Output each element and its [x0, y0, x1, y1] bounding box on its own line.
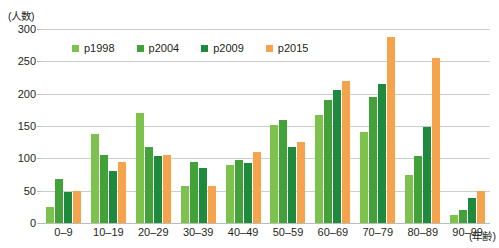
x-tick-label: 50–59	[266, 226, 311, 238]
y-axis-unit-label: (人数)	[8, 8, 34, 23]
bar-p2004-70–79	[369, 97, 377, 223]
legend-swatch-icon	[266, 45, 273, 52]
bar-p2004-20–29	[145, 147, 153, 223]
bar-p2015-70–79	[387, 37, 395, 223]
legend-swatch-icon	[201, 45, 208, 52]
bar-p2004-0–9	[55, 179, 63, 223]
y-tick-label: 0	[30, 217, 36, 229]
legend-label: p2015	[278, 42, 309, 54]
bar-group	[131, 29, 176, 223]
bar-p1998-0–9	[46, 207, 54, 223]
bar-p2009-40–49	[244, 163, 252, 223]
bar-chart: (人数) 050100150200250300 0–910–1920–2930–…	[0, 0, 499, 248]
legend-label: p2004	[149, 42, 180, 54]
bar-group	[221, 29, 266, 223]
legend-item-p2009: p2009	[201, 42, 244, 54]
bar-p2015-80–89	[432, 58, 440, 223]
y-axis-tick-labels: 050100150200250300	[0, 29, 36, 223]
chart-legend: p1998p2004p2009p2015	[72, 42, 308, 54]
x-tick-label: 70–79	[355, 226, 400, 238]
bar-p1998-70–79	[360, 132, 368, 223]
legend-label: p2009	[213, 42, 244, 54]
bar-p2015-50–59	[297, 142, 305, 223]
y-tick-label: 200	[18, 88, 36, 100]
bar-p2004-40–49	[235, 160, 243, 223]
x-tick-label: 30–39	[176, 226, 221, 238]
bar-p2004-60–69	[324, 100, 332, 223]
x-tick-label: 10–19	[86, 226, 131, 238]
bar-group	[86, 29, 131, 223]
y-tick-label: 100	[18, 152, 36, 164]
bar-p1998-20–29	[136, 113, 144, 223]
bar-p2015-0–9	[73, 191, 81, 223]
bar-p2009-30–39	[199, 168, 207, 223]
bar-p2015-40–49	[253, 152, 261, 223]
bar-p2004-30–39	[190, 162, 198, 223]
y-tick-label: 300	[18, 23, 36, 35]
bar-p2015-20–29	[163, 155, 171, 223]
bar-p2004-10–19	[100, 155, 108, 223]
bar-p2015-60–69	[342, 81, 350, 223]
bar-p1998-60–69	[315, 115, 323, 223]
legend-item-p2015: p2015	[266, 42, 309, 54]
x-tick-label: 60–69	[310, 226, 355, 238]
bar-p1998-40–49	[226, 165, 234, 223]
bar-group	[310, 29, 355, 223]
x-tick-label: 0–9	[41, 226, 86, 238]
bar-group	[400, 29, 445, 223]
legend-label: p1998	[84, 42, 115, 54]
bar-groups	[41, 29, 490, 223]
legend-item-p2004: p2004	[137, 42, 180, 54]
bar-p2015-10–19	[118, 162, 126, 223]
bar-p2004-50–59	[279, 120, 287, 223]
x-tick-label: 80–89	[400, 226, 445, 238]
bar-group	[41, 29, 86, 223]
legend-item-p1998: p1998	[72, 42, 115, 54]
bar-p1998-90–99	[450, 215, 458, 223]
bar-p1998-50–59	[270, 125, 278, 223]
bar-p1998-80–89	[405, 175, 413, 224]
bar-p2015-30–39	[208, 186, 216, 224]
bar-p2009-60–69	[333, 90, 341, 223]
plot-area	[41, 29, 490, 223]
bar-p2009-20–29	[154, 156, 162, 223]
bar-p2015-90–99	[477, 191, 485, 223]
y-tick-label: 250	[18, 55, 36, 67]
legend-swatch-icon	[72, 45, 79, 52]
bar-p1998-30–39	[181, 186, 189, 223]
bar-p1998-10–19	[91, 134, 99, 223]
bar-p2009-80–89	[423, 127, 431, 223]
x-tick-label: 20–29	[131, 226, 176, 238]
x-axis-unit-label: (年齢)	[469, 228, 496, 243]
axis-baseline	[41, 223, 490, 224]
bar-p2009-70–79	[378, 84, 386, 223]
bar-p2009-90–99	[468, 198, 476, 223]
bar-group	[176, 29, 221, 223]
bar-group	[266, 29, 311, 223]
bar-p2004-90–99	[459, 210, 467, 223]
x-axis-tick-labels: 0–910–1920–2930–3940–4950–5960–6970–7980…	[41, 226, 490, 238]
bar-group	[355, 29, 400, 223]
bar-p2009-0–9	[64, 192, 72, 223]
bar-p2009-10–19	[109, 171, 117, 223]
bar-p2009-50–59	[288, 147, 296, 223]
bar-p2004-80–89	[414, 156, 422, 223]
y-tick-label: 150	[18, 120, 36, 132]
bar-group	[445, 29, 490, 223]
legend-swatch-icon	[137, 45, 144, 52]
x-tick-label: 40–49	[221, 226, 266, 238]
y-tick-label: 50	[24, 185, 36, 197]
